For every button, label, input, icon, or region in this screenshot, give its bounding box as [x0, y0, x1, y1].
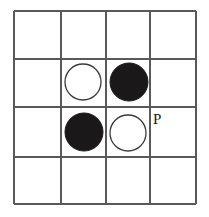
stone-black-r2c3[interactable] — [110, 63, 148, 101]
labels-layer: P — [153, 111, 161, 127]
stone-black-r3c2[interactable] — [65, 113, 103, 151]
board-canvas: P — [0, 0, 209, 217]
point-label-p: P — [153, 111, 161, 127]
go-board-figure: P — [0, 0, 209, 217]
figure-background — [0, 0, 209, 217]
stone-white-r2c2[interactable] — [65, 64, 101, 100]
stone-white-r3c3[interactable] — [110, 115, 146, 151]
